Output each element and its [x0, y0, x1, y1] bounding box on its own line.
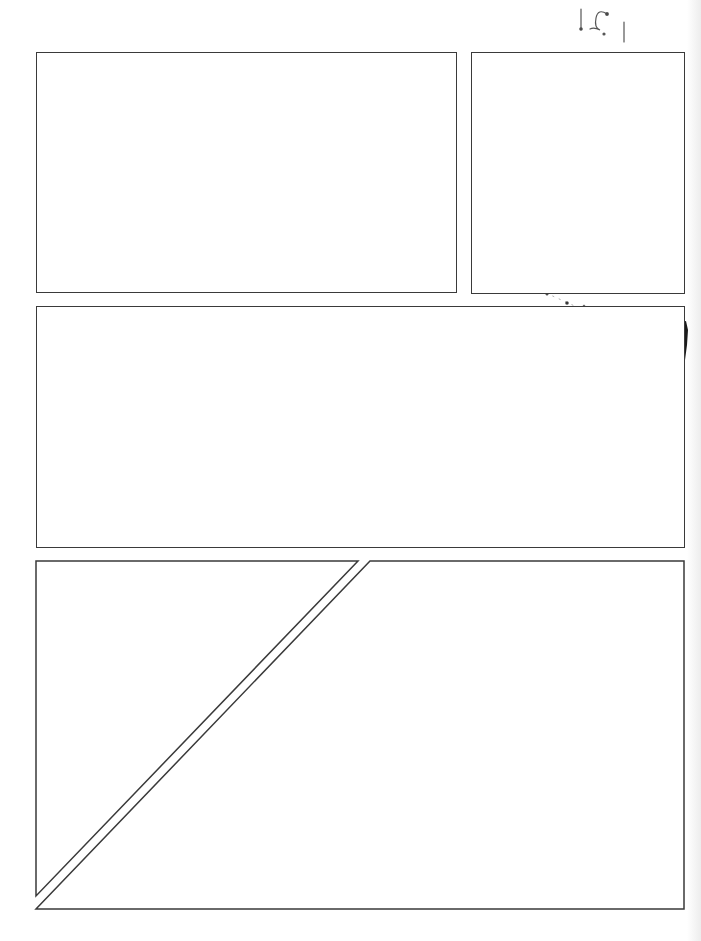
bottom-diagonal-panels: [0, 0, 701, 941]
